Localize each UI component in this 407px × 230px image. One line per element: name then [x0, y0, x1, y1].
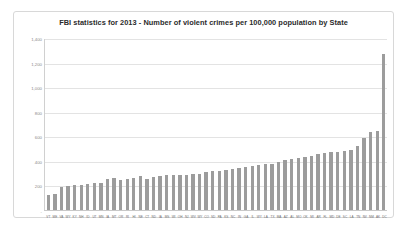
- y-axis-tick-label: 200: [35, 184, 42, 189]
- bar[interactable]: [204, 172, 207, 210]
- bar-slot: [91, 39, 98, 210]
- bar[interactable]: [283, 160, 286, 210]
- bar-slot: [256, 39, 263, 210]
- bar[interactable]: [191, 174, 194, 210]
- bar-slot: [269, 39, 276, 210]
- bar[interactable]: [237, 168, 240, 210]
- bar[interactable]: [251, 166, 254, 210]
- bar[interactable]: [323, 153, 326, 210]
- bar-slot: [170, 39, 177, 210]
- x-axis-tick-label: KS: [223, 213, 230, 222]
- x-axis-tick-label: MS: [164, 213, 171, 222]
- chart-title: FBI statistics for 2013 - Number of viol…: [14, 18, 393, 27]
- x-axis-tick-label: WY: [256, 213, 263, 222]
- bar[interactable]: [119, 180, 122, 210]
- bar-slot: [144, 39, 151, 210]
- bar[interactable]: [60, 187, 63, 210]
- bar[interactable]: [86, 184, 89, 210]
- bar[interactable]: [343, 151, 346, 210]
- bar[interactable]: [47, 195, 50, 210]
- bar[interactable]: [126, 179, 129, 210]
- bar[interactable]: [218, 171, 221, 210]
- bar-slot: [328, 39, 335, 210]
- bar[interactable]: [198, 174, 201, 210]
- x-axis-tick-label: TX: [269, 213, 276, 222]
- bar[interactable]: [145, 179, 148, 210]
- bar[interactable]: [329, 152, 332, 210]
- bar[interactable]: [106, 179, 109, 210]
- bar[interactable]: [303, 157, 306, 210]
- bar-slot: [177, 39, 184, 210]
- bar[interactable]: [231, 169, 234, 210]
- bar[interactable]: [264, 164, 267, 210]
- bar[interactable]: [224, 170, 227, 210]
- bar[interactable]: [99, 183, 102, 210]
- x-axis-tick-label: MD: [329, 213, 336, 222]
- x-axis-tick-label: AK: [375, 213, 382, 222]
- bar[interactable]: [369, 132, 372, 210]
- x-axis-tick-label: AL: [289, 213, 296, 222]
- bar-slot: [308, 39, 315, 210]
- y-axis-tick-label: 400: [35, 159, 42, 164]
- x-axis-tick-label: PA: [216, 213, 223, 222]
- bar[interactable]: [257, 165, 260, 210]
- bar-slot: [183, 39, 190, 210]
- x-axis-tick-label: OR: [118, 213, 125, 222]
- bar[interactable]: [356, 146, 359, 210]
- bar[interactable]: [93, 183, 96, 210]
- x-axis-tick-label: SC: [342, 213, 349, 222]
- bar[interactable]: [211, 171, 214, 210]
- bar[interactable]: [277, 162, 280, 210]
- bar-slot: [374, 39, 381, 210]
- x-axis-tick-label: NC: [230, 213, 237, 222]
- bar[interactable]: [132, 178, 135, 210]
- bar[interactable]: [152, 177, 155, 210]
- bar-slot: [52, 39, 59, 210]
- bar[interactable]: [270, 164, 273, 210]
- bar[interactable]: [158, 176, 161, 210]
- bar-slot: [58, 39, 65, 210]
- bar[interactable]: [165, 175, 168, 210]
- x-axis-tick-label: HI: [131, 213, 138, 222]
- bar[interactable]: [382, 54, 385, 210]
- x-axis-tick-label: KY: [71, 213, 78, 222]
- bar[interactable]: [185, 175, 188, 211]
- x-axis-tick-label: NJ: [183, 213, 190, 222]
- x-axis-tick-label: IA: [104, 213, 111, 222]
- bar-slot: [361, 39, 368, 210]
- bar[interactable]: [172, 175, 175, 210]
- x-axis-tick-label: UT: [91, 213, 98, 222]
- bar[interactable]: [112, 178, 115, 210]
- y-axis-tick-label: 1,200: [31, 61, 42, 66]
- bar[interactable]: [297, 158, 300, 210]
- bar[interactable]: [244, 167, 247, 210]
- x-axis-tick-label: DE: [335, 213, 342, 222]
- x-axis-tick-label: NV: [362, 213, 369, 222]
- x-axis-tick-label: IN: [236, 213, 243, 222]
- bar[interactable]: [376, 131, 379, 210]
- x-axis-tick-label: AR: [315, 213, 322, 222]
- x-axis-tick-label: OH: [177, 213, 184, 222]
- bar[interactable]: [178, 175, 181, 210]
- x-axis-tick-label: ME: [52, 213, 59, 222]
- x-axis-tick-label: FL: [322, 213, 329, 222]
- bar[interactable]: [362, 138, 365, 210]
- bar[interactable]: [73, 185, 76, 210]
- bar[interactable]: [349, 150, 352, 210]
- bar-slot: [209, 39, 216, 210]
- bar[interactable]: [290, 159, 293, 210]
- bar[interactable]: [80, 185, 83, 210]
- x-axis-tick-label: WY: [197, 213, 204, 222]
- bar-slot: [163, 39, 170, 210]
- bar-series: [45, 39, 387, 210]
- x-axis-tick-label: VT: [45, 213, 52, 222]
- bar-slot: [98, 39, 105, 210]
- bar[interactable]: [53, 194, 56, 210]
- bar[interactable]: [310, 156, 313, 210]
- x-axis-tick-label: NH: [78, 213, 85, 222]
- bar[interactable]: [139, 176, 142, 210]
- bar[interactable]: [316, 154, 319, 210]
- bar[interactable]: [336, 152, 339, 210]
- bar-slot: [203, 39, 210, 210]
- bar[interactable]: [66, 186, 69, 210]
